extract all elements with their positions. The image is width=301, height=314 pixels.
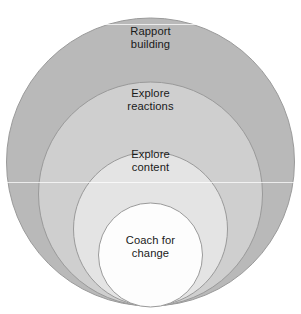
- diagram-canvas: [0, 0, 301, 314]
- circle-coach-for-change: [99, 203, 203, 307]
- nested-circles-diagram: Rapport building Explore reactions Explo…: [0, 0, 301, 314]
